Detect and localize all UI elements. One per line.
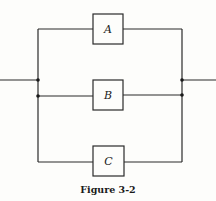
component-c-label: C <box>104 155 113 168</box>
parallel-block-diagram: A B C <box>0 0 216 201</box>
component-c: C <box>93 146 124 176</box>
junction-dot <box>180 93 184 97</box>
component-a: A <box>93 14 123 44</box>
component-b-label: B <box>103 89 112 102</box>
component-b: B <box>93 80 123 110</box>
component-a-label: A <box>103 23 112 36</box>
junction-dot <box>36 78 40 82</box>
figure-caption: Figure 3-2 <box>0 184 216 195</box>
junction-dot <box>180 78 184 82</box>
junction-dot <box>36 94 40 98</box>
